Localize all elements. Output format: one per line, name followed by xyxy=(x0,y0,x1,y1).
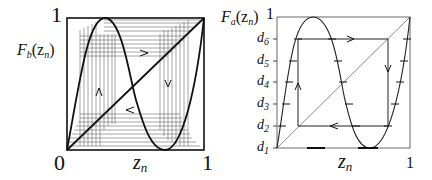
tick-main: d xyxy=(257,73,264,88)
tick-sub: 2 xyxy=(264,123,269,134)
label-sub: n xyxy=(346,159,353,174)
label-main: z xyxy=(338,150,346,172)
tick-main: d xyxy=(257,95,264,110)
left-cobweb-mesh xyxy=(68,20,200,146)
y-tick-d6: d6 xyxy=(257,31,269,47)
y-tick-d2: d2 xyxy=(257,118,269,134)
tick-sub: 6 xyxy=(264,36,269,47)
left-arrow-icon xyxy=(126,107,134,113)
left-x-axis-label: zn xyxy=(133,152,147,174)
left-x-origin-tick: 0 xyxy=(54,152,65,174)
tick-main: d xyxy=(257,30,264,45)
left-y-top-tick: 1 xyxy=(51,4,62,26)
right-y-top-tick: 1 xyxy=(266,6,274,22)
label-close: ) xyxy=(49,41,54,58)
left-y-axis-label: Fb(zn) xyxy=(17,42,55,60)
tick-main: d xyxy=(257,117,264,132)
y-tick-d4: d4 xyxy=(257,74,269,90)
y-tick-d5: d5 xyxy=(257,53,269,69)
right-plot xyxy=(273,17,411,148)
tick-sub: 1 xyxy=(264,145,269,156)
right-x-right-tick: 1 xyxy=(406,155,414,171)
label-close: ) xyxy=(253,8,258,25)
left-x-right-tick: 1 xyxy=(202,152,213,174)
label-arg: (z xyxy=(32,41,44,58)
y-axis-ticks xyxy=(273,39,277,148)
label-main: z xyxy=(133,151,141,173)
label-main: F xyxy=(17,41,27,58)
label-sub: n xyxy=(141,160,148,175)
tick-sub: 5 xyxy=(264,58,269,69)
tick-main: d xyxy=(257,52,264,67)
label-main: F xyxy=(221,8,231,25)
right-y-axis-label: Fa(zn) xyxy=(221,9,259,27)
tick-sub: 3 xyxy=(264,101,269,112)
left-plot xyxy=(67,18,204,150)
y-tick-d3: d3 xyxy=(257,96,269,112)
tick-main: d xyxy=(257,139,264,154)
right-x-axis-label: zn xyxy=(338,151,352,173)
y-tick-d1: d1 xyxy=(257,140,269,156)
up-arrow-icon xyxy=(96,88,102,96)
tick-sub: 4 xyxy=(264,79,269,90)
right-arrow-icon xyxy=(140,50,148,56)
label-arg: (z xyxy=(236,8,248,25)
